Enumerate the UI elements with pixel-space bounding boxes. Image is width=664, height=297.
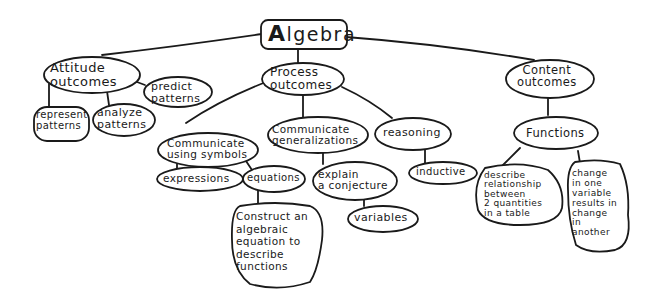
edge-attitude-predict	[137, 82, 145, 85]
node-communicate-using-symbols: Communicate using symbols	[167, 138, 247, 160]
node-algebra-initial: A	[268, 21, 287, 46]
node-algebra-rest: lgebra	[287, 23, 357, 45]
node-shapes	[34, 20, 629, 288]
node-algebra: Algebra	[268, 22, 356, 45]
node-variables: variables	[354, 212, 408, 224]
node-process-outcomes: Process outcomes	[270, 66, 332, 91]
node-explain-conjecture: explain a conjecture	[318, 169, 388, 191]
node-communicate-generalizations: Communicate generalizations	[272, 124, 358, 146]
node-attitude-outcomes: Attitude outcomes	[50, 61, 117, 88]
node-reasoning: reasoning	[383, 127, 441, 139]
node-equations: equations	[247, 173, 300, 184]
edge-algebra-content	[346, 37, 534, 60]
node-content-outcomes: Content outcomes	[517, 64, 577, 88]
node-predict-patterns: predict patterns	[151, 81, 200, 104]
node-construct-equation: Construct an algebraic equation to descr…	[236, 210, 308, 273]
node-represent-patterns: represent patterns	[36, 110, 88, 131]
edge-process-reasoning	[342, 87, 392, 118]
node-inductive: inductive	[416, 167, 466, 178]
node-expressions: expressions	[163, 173, 230, 184]
node-change-in-variable: change in one variable results in change…	[572, 169, 617, 238]
edge-algebra-attitude	[102, 34, 262, 55]
edge-attitude-analyze	[107, 91, 109, 105]
node-functions: Functions	[526, 127, 585, 139]
node-analyze-patterns: analyze patterns	[97, 107, 146, 130]
node-describe-relationship: describe relationship between 2 quantiti…	[484, 171, 542, 218]
edge-functions-describe	[502, 148, 520, 166]
